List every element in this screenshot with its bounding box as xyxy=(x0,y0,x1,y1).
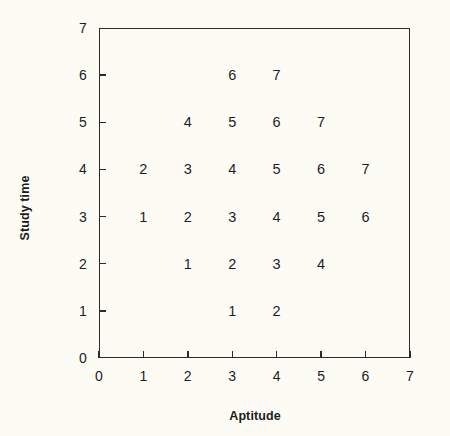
y-tick-label: 6 xyxy=(79,67,87,83)
x-tick-mark xyxy=(320,351,321,358)
y-tick-label: 0 xyxy=(79,350,87,366)
y-tick-mark xyxy=(99,169,106,170)
x-tick-label: 5 xyxy=(317,368,325,384)
data-point-label: 1 xyxy=(139,209,147,225)
data-point-label: 7 xyxy=(317,114,325,130)
x-tick-label: 3 xyxy=(228,368,236,384)
data-point-label: 7 xyxy=(273,67,281,83)
data-point-label: 6 xyxy=(361,209,369,225)
x-tick-mark xyxy=(409,351,410,358)
data-point-label: 4 xyxy=(228,161,236,177)
data-point-label: 6 xyxy=(228,67,236,83)
x-tick-mark xyxy=(365,351,366,358)
data-point-label: 5 xyxy=(317,209,325,225)
x-tick-mark xyxy=(232,351,233,358)
data-point-label: 4 xyxy=(273,209,281,225)
y-tick-mark xyxy=(99,122,106,123)
data-point-label: 3 xyxy=(228,209,236,225)
y-tick-label: 1 xyxy=(79,303,87,319)
y-tick-label: 4 xyxy=(79,161,87,177)
data-point-label: 4 xyxy=(184,114,192,130)
x-tick-mark xyxy=(98,351,99,358)
data-point-label: 2 xyxy=(273,303,281,319)
y-axis-label: Study time xyxy=(0,201,57,215)
data-point-label: 1 xyxy=(184,256,192,272)
data-point-label: 4 xyxy=(317,256,325,272)
y-axis-label-text: Study time xyxy=(18,176,32,241)
y-tick-mark xyxy=(99,74,106,75)
x-tick-mark xyxy=(276,351,277,358)
x-tick-mark xyxy=(143,351,144,358)
data-point-label: 2 xyxy=(184,209,192,225)
plot-area-frame xyxy=(99,28,410,358)
y-tick-label: 5 xyxy=(79,114,87,130)
x-tick-mark xyxy=(187,351,188,358)
data-point-label: 3 xyxy=(184,161,192,177)
data-point-label: 3 xyxy=(273,256,281,272)
data-point-label: 7 xyxy=(361,161,369,177)
data-point-label: 5 xyxy=(228,114,236,130)
x-axis-label: Aptitude xyxy=(229,409,280,423)
x-tick-label: 6 xyxy=(362,368,370,384)
y-tick-mark xyxy=(99,263,106,264)
y-tick-label: 2 xyxy=(79,256,87,272)
data-point-label: 6 xyxy=(273,114,281,130)
y-tick-mark xyxy=(99,310,106,311)
y-tick-mark xyxy=(99,216,106,217)
x-tick-label: 1 xyxy=(139,368,147,384)
y-tick-label: 7 xyxy=(79,20,87,36)
data-point-label: 6 xyxy=(317,161,325,177)
x-tick-label: 7 xyxy=(406,368,414,384)
data-point-label: 1 xyxy=(228,303,236,319)
x-tick-label: 0 xyxy=(95,368,103,384)
chart-figure: 01234567 01234567 6745672345671234561234… xyxy=(0,0,450,436)
data-point-label: 2 xyxy=(228,256,236,272)
x-tick-label: 4 xyxy=(273,368,281,384)
x-tick-label: 2 xyxy=(184,368,192,384)
data-point-label: 2 xyxy=(139,161,147,177)
data-point-label: 5 xyxy=(273,161,281,177)
y-tick-label: 3 xyxy=(79,209,87,225)
